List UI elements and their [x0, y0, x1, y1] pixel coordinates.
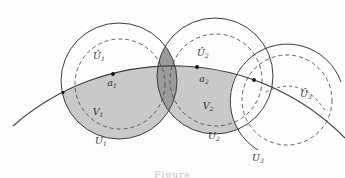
- diagram-svg: Û1Û2Û3a1a2V1V2U1U2U3: [0, 0, 345, 178]
- label-U3: U3: [252, 152, 264, 164]
- dot-a2: [195, 65, 199, 69]
- dot-curve-entry: [62, 91, 65, 94]
- label-U3-hat: Û3: [300, 88, 312, 100]
- dot-junction: [252, 78, 256, 82]
- manifold-charts-diagram: Û1Û2Û3a1a2V1V2U1U2U3: [0, 0, 345, 178]
- dot-a1: [111, 72, 115, 76]
- figure-caption-partial: Figure: [0, 170, 345, 178]
- label-U1-hat: Û1: [93, 50, 105, 62]
- label-U2-hat: Û2: [197, 47, 209, 59]
- figure-panel: Û1Û2Û3a1a2V1V2U1U2U3 Figure: [0, 0, 345, 178]
